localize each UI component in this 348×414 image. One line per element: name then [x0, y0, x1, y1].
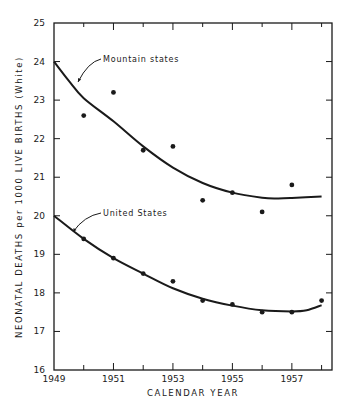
y-tick-label: 25 — [34, 18, 45, 28]
mountain-states-data-point — [171, 144, 176, 149]
mountain-states-data-point — [230, 190, 235, 195]
y-tick-label: 17 — [34, 326, 45, 336]
y-tick-label: 22 — [34, 134, 45, 144]
x-tick-label: 1957 — [280, 374, 303, 384]
x-tick-label: 1953 — [161, 374, 184, 384]
mountain-states-data-point — [289, 183, 294, 188]
united-states-data-point — [289, 310, 294, 315]
united-states-data-point — [200, 298, 205, 303]
united-states-pointer-arrow — [73, 213, 101, 232]
mountain-states-data-point — [141, 148, 146, 153]
mountain-states-data-point — [260, 210, 265, 215]
united-states-fitted-curve — [54, 216, 322, 312]
y-tick-label: 20 — [34, 211, 46, 221]
plot-axes — [54, 23, 332, 370]
mountain-states-data-point — [200, 198, 205, 203]
united-states-data-point — [81, 237, 86, 242]
mountain-states-pointer-arrow — [78, 59, 101, 82]
united-states-data-point — [141, 271, 146, 276]
mountain-states-label: Mountain states — [103, 55, 179, 64]
y-axis-title: NEONATAL DEATHS per 1000 LIVE BIRTHS (Wh… — [14, 56, 24, 338]
mountain-states-data-point — [81, 113, 86, 118]
y-tick-label: 18 — [34, 288, 46, 298]
mountain-states-fitted-curve — [54, 62, 322, 199]
y-tick-label: 19 — [34, 249, 46, 259]
y-tick-label: 21 — [34, 172, 45, 182]
united-states-data-point — [260, 310, 265, 315]
x-tick-labels: 19491951195319551957 — [43, 374, 304, 384]
x-axis-title: CALENDAR YEAR — [147, 388, 239, 398]
axis-ticks — [54, 23, 332, 370]
united-states-data-point — [171, 279, 176, 284]
series-labels: Mountain statesUnited States — [73, 55, 179, 232]
united-states-data-point — [230, 302, 235, 307]
mountain-states-data-point — [111, 90, 116, 95]
y-tick-label: 24 — [34, 57, 46, 67]
x-tick-label: 1955 — [221, 374, 244, 384]
united-states-data-point — [111, 256, 116, 261]
y-tick-labels: 16171819202122232425 — [34, 18, 46, 375]
x-tick-label: 1949 — [43, 374, 66, 384]
united-states-data-point — [319, 298, 324, 303]
plot-frame — [54, 23, 332, 370]
x-tick-label: 1951 — [102, 374, 125, 384]
neonatal-deaths-chart: 19491951195319551957 1617181920212223242… — [0, 0, 348, 414]
fitted-curves — [54, 62, 322, 312]
united-states-label: United States — [103, 209, 168, 218]
y-tick-label: 16 — [34, 365, 46, 375]
y-tick-label: 23 — [34, 95, 45, 105]
